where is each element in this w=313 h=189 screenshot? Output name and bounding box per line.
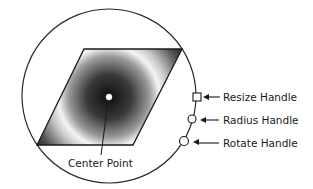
- radius-handle-label: Radius Handle: [223, 114, 299, 126]
- resize-handle-icon[interactable]: [193, 93, 201, 101]
- radius-arrow-head-icon: [200, 117, 206, 123]
- gradient-handles-diagram: Center Point Resize Handle Radius Handle…: [0, 0, 313, 189]
- rotate-arrow-head-icon: [193, 139, 199, 145]
- resize-arrow-head-icon: [203, 94, 209, 100]
- rotate-handle-label: Rotate Handle: [223, 137, 298, 149]
- center-point-handle[interactable]: [106, 94, 112, 100]
- radius-handle-icon[interactable]: [188, 115, 196, 123]
- resize-handle-label: Resize Handle: [223, 91, 297, 103]
- center-point-label: Center Point: [68, 157, 133, 169]
- rotate-handle-icon[interactable]: [180, 137, 189, 146]
